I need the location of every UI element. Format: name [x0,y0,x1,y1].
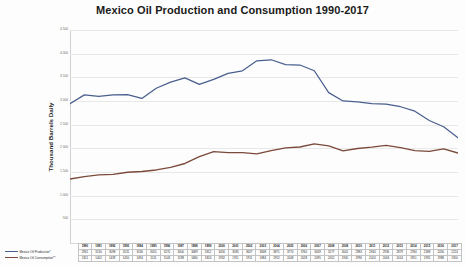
page-title: Mexico Oil Production and Consumption 19… [0,4,465,16]
y-tick-label: 3 500 [42,76,68,79]
y-tick-label: 1 500 [42,170,68,173]
table-cell-value: 1996 [352,256,366,262]
y-tick-label: 500 [42,218,68,221]
table-cell-value: 1494 [133,256,147,262]
table-cell-value: 2024 [365,256,379,262]
y-tick-label: 2 500 [42,123,68,126]
table-cell-value: 1951 [407,256,421,262]
line-mexico-oil-production [70,60,458,138]
table-row: Mexico Oil Consumption** 135114021439145… [4,256,462,262]
table-cell-value: 2095 [311,256,325,262]
y-tick-label: 3 000 [42,99,68,102]
table-cell-value: 1680 [188,256,202,262]
table-cell-value: 1900 [448,256,462,262]
table-cell-value: 2014 [393,256,407,262]
table-cell-value: 1911 [242,256,256,262]
legend-label-consumption: Mexico Oil Consumption** [20,256,56,260]
y-axis-ticks: 4 5004 0003 5003 0002 5002 0001 5001 000… [40,30,68,243]
table-cell-value: 1598 [174,256,188,262]
line-mexico-oil-consumption [70,144,458,179]
table-cell-value: 1935 [420,256,434,262]
table-cell-value: 1402 [92,256,106,262]
table-cell-value: 1945 [338,256,352,262]
chart-screenshot: Mexico Oil Production and Consumption 19… [0,0,465,265]
table-cell-value: 1543 [160,256,174,262]
table-cell-value: 1911 [229,256,243,262]
table-cell-value: 2008 [283,256,297,262]
table-cell-value: 1988 [434,256,448,262]
table-cell-value: 1824 [201,256,215,262]
legend-swatch-consumption [5,257,18,258]
series-lines [70,30,458,243]
legend-label-production: Mexico Oil Production* [20,250,51,254]
table-cell-value: 1511 [146,256,160,262]
legend-item-consumption: Mexico Oil Consumption** [4,256,78,262]
y-tick-label: 2 000 [42,147,68,150]
data-table: 1990199119921993199419951996199719981999… [4,243,462,262]
table-cell-value: 1932 [215,256,229,262]
table-cell-value: 2028 [297,256,311,262]
legend-swatch-production [5,251,18,252]
y-tick-label: 1 000 [42,194,68,197]
table-cell-value: 1351 [78,256,92,262]
table-cell-value: 1439 [105,256,119,262]
table-cell-value: 2052 [324,256,338,262]
y-tick-label: 4 500 [42,28,68,31]
plot-area [70,30,458,243]
data-table-container: 1990199119921993199419951996199719981999… [4,243,462,264]
table-cell-value: 1952 [270,256,284,262]
table-cell-value: 1450 [119,256,133,262]
table-cell-value: 2063 [379,256,393,262]
table-cell-value: 1884 [256,256,270,262]
y-tick-label: 4 000 [42,52,68,55]
